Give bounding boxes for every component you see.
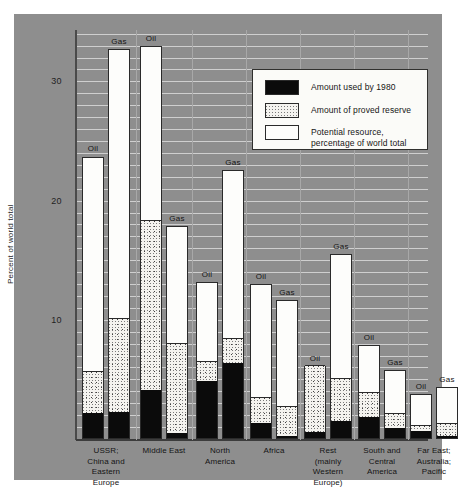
y-axis-tick-label: 10 <box>38 315 62 325</box>
bar-segment-reserve <box>251 397 271 422</box>
bar-segment-reserve <box>437 423 457 436</box>
bar-gas <box>222 170 244 439</box>
bar-value-label: Gas <box>218 158 248 167</box>
bar-segment-reserve <box>167 343 187 434</box>
group-separator <box>192 30 193 440</box>
bar-segment-reserve <box>331 378 351 421</box>
bar-value-label: Oil <box>246 272 276 281</box>
bar-value-label: Oil <box>300 354 330 363</box>
bar-gas <box>276 300 298 439</box>
bar-value-label: Gas <box>432 375 462 384</box>
bar-segment-reserve <box>359 392 379 417</box>
bar-gas <box>166 226 188 439</box>
legend-item-used: Amount used by 1980 <box>265 80 396 95</box>
bar-segment-used <box>83 413 103 438</box>
group-separator <box>136 30 137 440</box>
bar-segment-reserve <box>277 406 297 436</box>
legend-item-potential: Potential resource, percentage of world … <box>265 125 407 149</box>
bar-value-label: Oil <box>192 270 222 279</box>
bar-value-label: Oil <box>354 333 384 342</box>
legend-label: Potential resource, percentage of world … <box>311 125 407 149</box>
chart-legend: Amount used by 1980Amount of proved rese… <box>252 69 428 150</box>
bar-value-label: Oil <box>78 144 108 153</box>
x-axis-baseline <box>76 439 428 441</box>
bar-segment-reserve <box>141 220 161 390</box>
bar-segment-used <box>411 431 431 438</box>
legend-swatch-potential <box>265 125 299 140</box>
bar-segment-used <box>437 436 457 438</box>
bar-gas <box>330 254 352 439</box>
bar-value-label: Gas <box>380 358 410 367</box>
legend-swatch-reserve <box>265 103 299 118</box>
bar-oil <box>196 282 218 439</box>
bar-segment-reserve <box>385 413 405 428</box>
bar-gas <box>384 370 406 439</box>
bar-value-label: Gas <box>326 242 356 251</box>
bar-segment-used <box>385 428 405 438</box>
bar-value-label: Gas <box>162 214 192 223</box>
bar-value-label: Gas <box>104 37 134 46</box>
y-axis-line <box>75 30 77 440</box>
bar-oil <box>358 345 380 439</box>
bar-segment-used <box>359 417 379 438</box>
bar-oil <box>140 46 162 439</box>
bar-segment-used <box>331 421 351 438</box>
y-axis-label: Percent of world total <box>6 204 15 284</box>
group-separator <box>246 30 247 440</box>
legend-item-reserve: Amount of proved reserve <box>265 103 411 118</box>
y-axis-tick-label: 20 <box>38 196 62 206</box>
y-axis-tick-label: 30 <box>38 76 62 86</box>
bar-segment-reserve <box>197 361 217 381</box>
bar-segment-used <box>109 412 129 438</box>
bar-value-label: Oil <box>136 34 166 43</box>
bar-segment-used <box>167 433 187 438</box>
bar-gas <box>436 387 458 439</box>
bar-segment-reserve <box>223 338 243 363</box>
bar-segment-used <box>141 390 161 438</box>
legend-swatch-used <box>265 80 299 95</box>
bar-segment-reserve <box>83 371 103 413</box>
bar-oil <box>82 157 104 440</box>
chart-figure: Percent of world total 102030 OilGasOilG… <box>14 14 442 480</box>
category-label: Far East; Australia; Pacific <box>396 446 462 478</box>
bar-segment-used <box>197 381 217 438</box>
bar-segment-used <box>277 436 297 438</box>
bar-segment-reserve <box>305 365 325 432</box>
bar-segment-used <box>251 423 271 438</box>
bar-value-label: Gas <box>272 288 302 297</box>
bar-oil <box>410 394 432 439</box>
bar-segment-used <box>305 432 325 438</box>
bar-oil <box>250 284 272 439</box>
bar-segment-reserve <box>109 318 129 412</box>
gridline <box>76 34 428 35</box>
legend-label: Amount used by 1980 <box>311 80 396 93</box>
bar-oil <box>304 366 326 439</box>
bar-segment-used <box>223 363 243 438</box>
bar-gas <box>108 49 130 439</box>
legend-label: Amount of proved reserve <box>311 103 411 116</box>
